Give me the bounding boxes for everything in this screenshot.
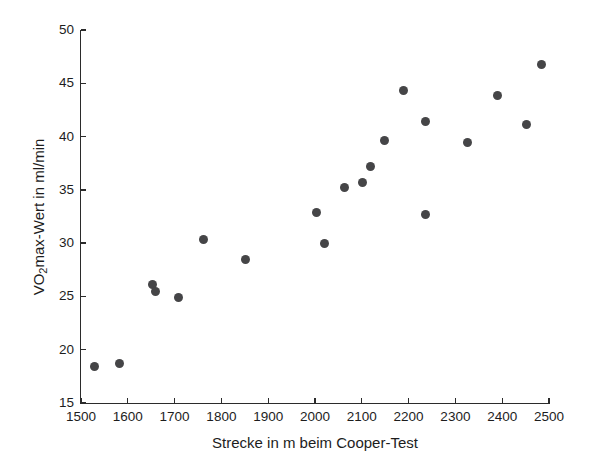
y-tick-label: 20 bbox=[34, 342, 74, 357]
data-point bbox=[421, 210, 430, 219]
data-point bbox=[366, 162, 375, 171]
data-point bbox=[399, 86, 408, 95]
y-tick-mark bbox=[81, 29, 86, 30]
x-tick-label: 2100 bbox=[347, 409, 377, 424]
y-axis-title-subscript: 2 bbox=[37, 268, 49, 274]
x-tick-mark bbox=[455, 398, 456, 403]
y-tick-mark bbox=[81, 349, 86, 350]
data-point bbox=[493, 91, 502, 100]
x-tick-mark bbox=[361, 398, 362, 403]
x-tick-mark bbox=[221, 398, 222, 403]
plot-area: 1500160017001800190020002100220023002400… bbox=[81, 30, 549, 403]
data-point bbox=[312, 208, 321, 217]
x-tick-mark bbox=[268, 398, 269, 403]
data-point bbox=[340, 183, 349, 192]
y-tick-mark bbox=[81, 402, 86, 403]
data-point bbox=[380, 136, 389, 145]
x-axis-line bbox=[80, 403, 550, 404]
x-tick-label: 1900 bbox=[253, 409, 283, 424]
x-tick-mark bbox=[174, 398, 175, 403]
y-tick-mark bbox=[81, 296, 86, 297]
data-point bbox=[537, 60, 546, 69]
x-tick-mark bbox=[502, 398, 503, 403]
x-tick-mark bbox=[408, 398, 409, 403]
x-tick-label: 2500 bbox=[534, 409, 564, 424]
y-tick-label: 50 bbox=[34, 22, 74, 37]
data-point bbox=[199, 235, 208, 244]
x-tick-mark bbox=[127, 398, 128, 403]
data-point bbox=[358, 178, 367, 187]
x-tick-label: 1700 bbox=[160, 409, 190, 424]
y-tick-mark bbox=[81, 83, 86, 84]
y-axis-title: VO2max-Wert in ml/min bbox=[30, 139, 49, 296]
y-tick-label: 15 bbox=[34, 395, 74, 410]
x-axis-title: Strecke in m beim Cooper-Test bbox=[81, 434, 549, 451]
x-tick-label: 1600 bbox=[113, 409, 143, 424]
x-tick-label: 2300 bbox=[440, 409, 470, 424]
x-tick-label: 1500 bbox=[66, 409, 96, 424]
x-tick-mark bbox=[314, 398, 315, 403]
data-point bbox=[115, 359, 124, 368]
y-tick-mark bbox=[81, 189, 86, 190]
data-point bbox=[174, 293, 183, 302]
data-point bbox=[151, 287, 160, 296]
y-tick-label: 45 bbox=[34, 75, 74, 90]
data-point bbox=[421, 117, 430, 126]
y-axis-title-suffix: max-Wert in ml/min bbox=[30, 139, 47, 268]
x-tick-label: 2200 bbox=[394, 409, 424, 424]
data-point bbox=[522, 120, 531, 129]
y-axis-title-prefix: VO bbox=[30, 274, 47, 296]
data-point bbox=[320, 239, 329, 248]
x-tick-label: 2400 bbox=[487, 409, 517, 424]
data-point bbox=[241, 255, 250, 264]
data-point bbox=[90, 362, 99, 371]
x-tick-label: 2000 bbox=[300, 409, 330, 424]
x-tick-label: 1800 bbox=[206, 409, 236, 424]
y-tick-mark bbox=[81, 136, 86, 137]
data-point bbox=[463, 138, 472, 147]
x-tick-mark bbox=[548, 398, 549, 403]
scatter-plot-figure: 1500160017001800190020002100220023002400… bbox=[0, 0, 594, 472]
y-tick-mark bbox=[81, 242, 86, 243]
